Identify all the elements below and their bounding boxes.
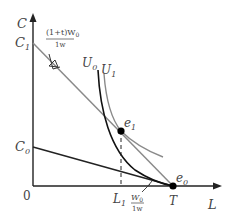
slope-bottom-numerator: W0 [131, 193, 143, 203]
slope-bottom-denominator: 1w [132, 205, 142, 213]
x-axis-label: L [207, 197, 217, 212]
diagram-canvas: C L 0 C1 C0 L1 T U0 U1 e1 e0 (1+t)W0 1w … [0, 0, 235, 223]
t-label: T [169, 194, 178, 208]
y-axis-label: C [17, 16, 27, 31]
l1-label: L1 [112, 192, 126, 208]
origin-label: 0 [23, 189, 31, 203]
indifference-curve-u1 [104, 74, 163, 157]
slope-top-denominator: 1w [55, 41, 65, 49]
u0-label: U0 [82, 56, 97, 72]
e0-label: e0 [176, 171, 188, 187]
c0-label: C0 [15, 139, 30, 156]
labor-leisure-diagram: C L 0 C1 C0 L1 T U0 U1 e1 e0 (1+t)W0 1w … [0, 0, 235, 223]
slope-top-numerator: (1+t)W0 [46, 28, 79, 38]
x-axis-arrow-icon [213, 183, 222, 190]
y-axis-arrow-icon [30, 13, 37, 22]
e1-label: e1 [124, 116, 136, 132]
u1-label: U1 [101, 63, 116, 79]
c1-label: C1 [15, 35, 30, 52]
